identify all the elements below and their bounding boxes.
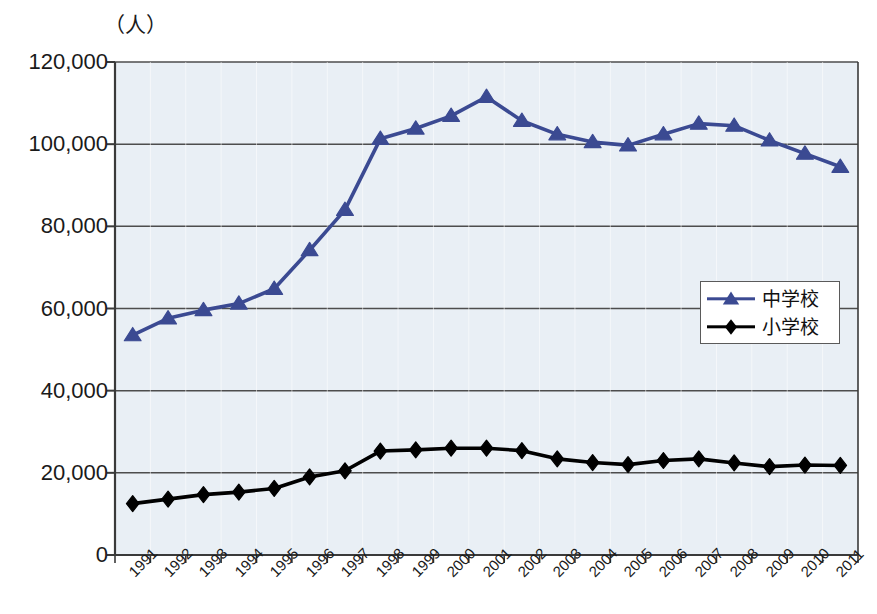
x-tick-label: 2002 [514, 544, 550, 580]
legend-label: 中学校 [762, 290, 819, 309]
x-tick-label: 1991 [125, 544, 161, 580]
legend-item: 小学校 [701, 313, 839, 341]
x-tick-label: 2001 [479, 544, 515, 580]
legend-item: 中学校 [701, 285, 839, 313]
x-tick-label: 1995 [266, 544, 302, 580]
x-tick-label: 1996 [302, 544, 338, 580]
x-tick-label: 1994 [231, 544, 267, 580]
x-tick-label: 2006 [655, 544, 691, 580]
x-tick-label: 1998 [372, 544, 408, 580]
x-tick-label: 2008 [726, 544, 762, 580]
x-tick-label: 1992 [160, 544, 196, 580]
figure-caption [0, 601, 877, 614]
x-tick-label: 2003 [549, 544, 585, 580]
triangle-marker-icon [707, 290, 755, 308]
x-tick-label: 2000 [443, 544, 479, 580]
x-tick-label: 1993 [195, 544, 231, 580]
x-tick-label: 2009 [762, 544, 798, 580]
diamond-marker-icon [707, 318, 755, 336]
chart-legend: 中学校小学校 [700, 281, 840, 344]
x-tick-label: 2010 [797, 544, 833, 580]
x-tick-label: 1999 [408, 544, 444, 580]
x-tick-label: 2011 [832, 545, 867, 580]
x-tick-label: 2004 [585, 544, 621, 580]
line-chart-figure: （人） 020,00040,00060,00080,000100,000120,… [0, 0, 877, 614]
legend-label: 小学校 [762, 318, 819, 337]
x-tick-label: 2005 [620, 544, 656, 580]
x-tick-label: 1997 [337, 544, 373, 580]
x-tick-label: 2007 [691, 544, 727, 580]
